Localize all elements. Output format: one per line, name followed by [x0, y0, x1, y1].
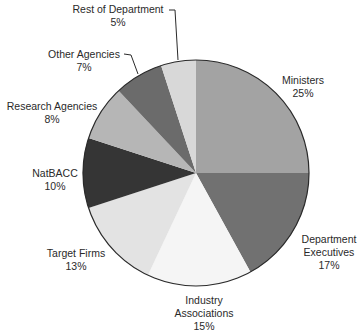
label-rest-of-department: Rest of Department 5%: [72, 3, 163, 29]
label-industry-associations: Industry Associations 15%: [175, 294, 234, 333]
label-name: Target Firms: [47, 247, 105, 260]
pie-slices: [83, 60, 309, 286]
label-department-executives: Department Executives 17%: [302, 233, 357, 272]
leader-line-rest-of-department: [169, 10, 178, 60]
label-name: Department: [302, 233, 357, 246]
label-name-line2: Associations: [175, 307, 234, 320]
label-ministers: Ministers 25%: [282, 74, 324, 100]
label-percent: 7%: [48, 61, 120, 74]
label-name: Industry: [175, 294, 234, 307]
label-percent: 15%: [175, 320, 234, 333]
label-name: NatBACC: [32, 167, 78, 180]
label-name: Rest of Department: [72, 3, 163, 16]
label-natbacc: NatBACC 10%: [32, 167, 78, 193]
label-percent: 17%: [302, 259, 357, 272]
label-percent: 5%: [72, 16, 163, 29]
label-target-firms: Target Firms 13%: [47, 247, 105, 273]
label-percent: 13%: [47, 260, 105, 273]
label-percent: 8%: [7, 113, 97, 126]
label-name: Other Agencies: [48, 48, 120, 61]
label-name: Research Agencies: [7, 100, 97, 113]
label-name-line2: Executives: [302, 246, 357, 259]
label-research-agencies: Research Agencies 8%: [7, 100, 97, 126]
leader-line-other-agencies: [124, 54, 138, 74]
label-other-agencies: Other Agencies 7%: [48, 48, 120, 74]
label-percent: 10%: [32, 180, 78, 193]
label-percent: 25%: [282, 87, 324, 100]
label-name: Ministers: [282, 74, 324, 87]
